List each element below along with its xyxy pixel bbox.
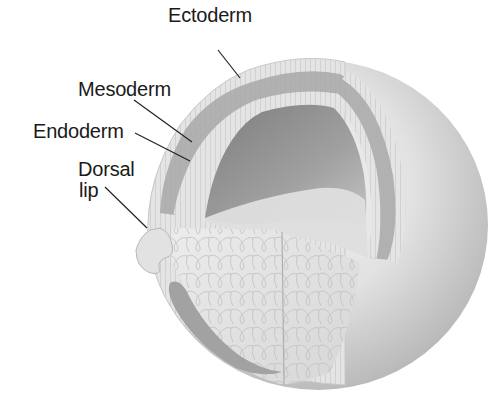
gastrula-illustration <box>0 0 497 395</box>
label-mesoderm: Mesoderm <box>78 79 171 100</box>
label-endoderm: Endoderm <box>33 121 124 142</box>
label-ectoderm: Ectoderm <box>168 5 252 26</box>
label-dorsal-lip-line2: lip <box>79 180 98 201</box>
label-dorsal-lip-line1: Dorsal <box>78 159 135 180</box>
dorsal-lip-leader-line <box>105 187 147 228</box>
yolk-cells <box>172 228 360 384</box>
ectoderm-leader-line <box>218 50 240 78</box>
gastrula-diagram: Ectoderm Mesoderm Endoderm Dorsal lip <box>0 0 497 395</box>
